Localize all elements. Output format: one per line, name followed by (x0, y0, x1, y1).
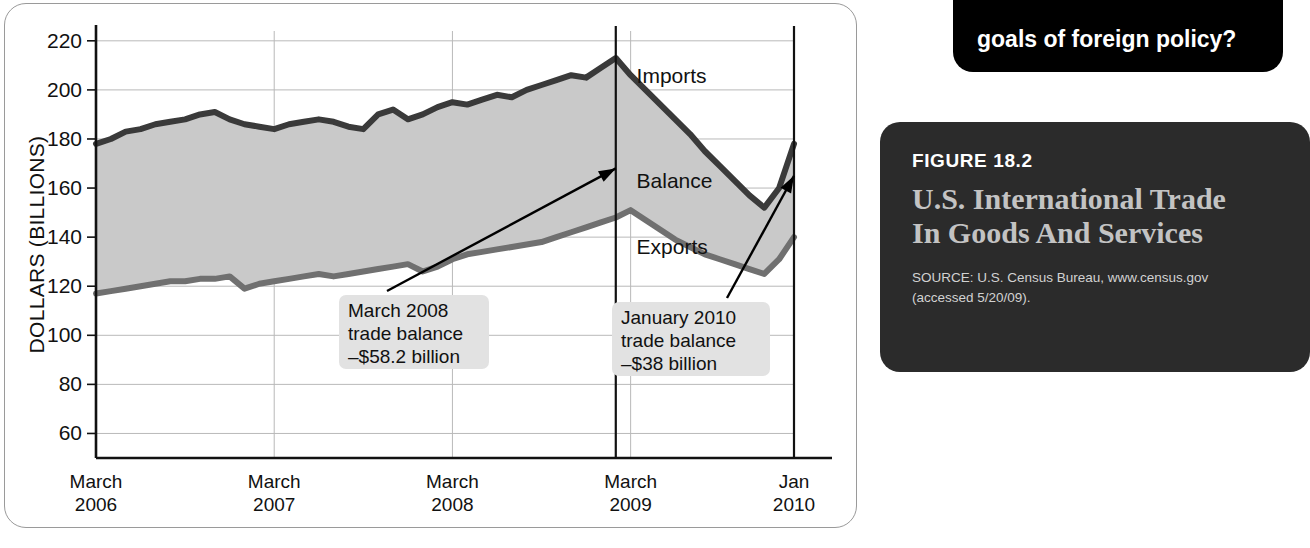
march-2008-callout-line: March 2008 (348, 300, 448, 321)
y-tick-label: 180 (47, 127, 82, 150)
x-tick-label-line1: Jan (779, 471, 810, 492)
y-tick-label: 100 (47, 323, 82, 346)
question-callout-bubble: goals of foreign policy? (953, 0, 1283, 72)
x-tick-label-line2: 2006 (75, 494, 117, 515)
x-tick-label-line1: March (248, 471, 301, 492)
x-tick-label-line1: March (426, 471, 479, 492)
question-callout-text: goals of foreign policy? (977, 26, 1259, 54)
january-2010-callout-line: January 2010 (621, 307, 736, 328)
figure-source-citation: SOURCE: U.S. Census Bureau, www.census.g… (912, 268, 1262, 306)
y-tick-label: 80 (59, 372, 82, 395)
january-2010-callout-line: trade balance (621, 330, 736, 351)
x-tick-label-line1: March (604, 471, 657, 492)
x-tick-label-line2: 2008 (431, 494, 473, 515)
figure-number: FIGURE 18.2 (912, 150, 1310, 172)
y-tick-label: 120 (47, 274, 82, 297)
x-tick-label-line2: 2007 (253, 494, 295, 515)
x-tick-label-line2: 2010 (773, 494, 815, 515)
x-tick-label-line1: March (70, 471, 123, 492)
trade-chart: 6080100120140160180200220March2006March2… (4, 3, 857, 528)
january-2010-callout-line: –$38 billion (621, 353, 717, 374)
y-tick-label: 220 (47, 29, 82, 52)
imports-series-label: Imports (637, 64, 707, 87)
y-tick-label: 60 (59, 421, 82, 444)
figure-title: U.S. International Trade In Goods And Se… (912, 182, 1242, 250)
march-2008-callout-line: trade balance (348, 323, 463, 344)
balance-series-label: Balance (637, 169, 713, 192)
y-tick-label: 160 (47, 176, 82, 199)
y-tick-label: 140 (47, 225, 82, 248)
y-tick-label: 200 (47, 78, 82, 101)
exports-series-label: Exports (637, 235, 708, 258)
y-axis-title: DOLLARS (BILLIONS) (25, 136, 48, 354)
figure-caption-panel: FIGURE 18.2 U.S. International Trade In … (880, 122, 1310, 372)
x-tick-label-line2: 2009 (609, 494, 651, 515)
march-2008-callout-line: –$58.2 billion (348, 346, 460, 367)
